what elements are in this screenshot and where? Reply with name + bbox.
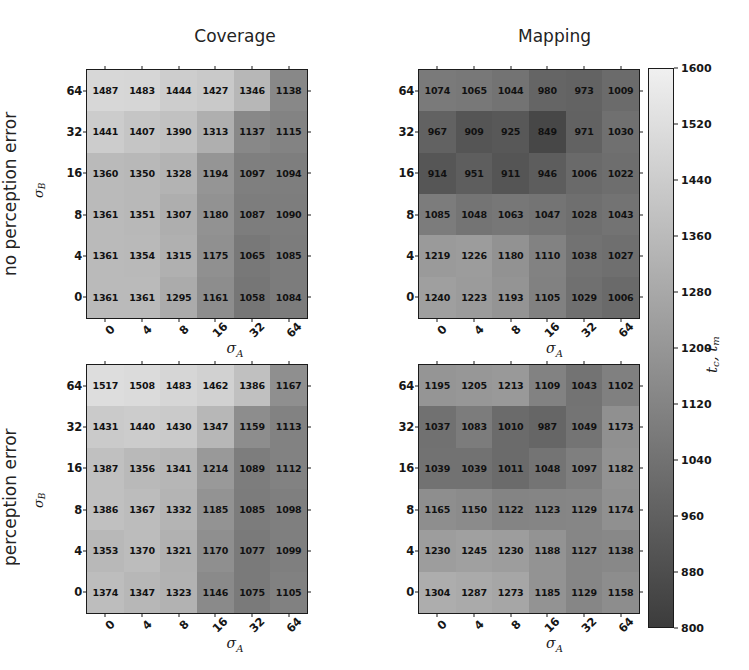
heatmap-cell-value: 1347 bbox=[129, 587, 155, 598]
heatmap-cell: 1083 bbox=[456, 406, 493, 447]
heatmap-cell-value: 1048 bbox=[461, 209, 487, 220]
x-tick-mark bbox=[437, 318, 438, 322]
x-tick-label: 16 bbox=[210, 614, 231, 635]
heatmap-cell-value: 1049 bbox=[571, 421, 597, 432]
y-tick-mark bbox=[415, 468, 419, 469]
heatmap-cell-value: 1063 bbox=[498, 209, 524, 220]
heatmap-cell: 100664 bbox=[602, 277, 639, 318]
heatmap-cell: 1307 bbox=[160, 194, 197, 235]
x-tick-label: 0 bbox=[103, 322, 118, 337]
heatmap-cell-value: 1185 bbox=[203, 504, 229, 515]
heatmap-cell: 1440 bbox=[124, 406, 161, 447]
x-tick-label: 32 bbox=[246, 319, 267, 340]
y-tick-label: 16 bbox=[388, 461, 414, 475]
x-axis-label-subscript: A bbox=[556, 643, 563, 654]
y-tick-mark-right bbox=[307, 214, 311, 215]
y-tick-mark bbox=[83, 297, 87, 298]
heatmap-cell: 1049 bbox=[566, 406, 603, 447]
heatmap-cell-value: 1137 bbox=[239, 126, 265, 137]
column-title-coverage: Coverage bbox=[85, 26, 385, 46]
x-tick-mark bbox=[178, 613, 179, 617]
heatmap-cell-value: 1170 bbox=[203, 545, 229, 556]
y-tick-label: 32 bbox=[388, 125, 414, 139]
heatmap-cell: 143132 bbox=[87, 406, 124, 447]
x-tick-label: 64 bbox=[283, 319, 304, 340]
heatmap-cell-value: 1245 bbox=[461, 545, 487, 556]
heatmap-cell-value: 1307 bbox=[166, 209, 192, 220]
heatmap-cell: 13614 bbox=[87, 235, 124, 276]
heatmap-cell: 13868 bbox=[87, 489, 124, 530]
heatmap-cell: 909 bbox=[456, 111, 493, 152]
heatmap-cell-value: 1185 bbox=[535, 587, 561, 598]
y-tick-label: 8 bbox=[388, 503, 414, 517]
x-axis-label-symbol: σ bbox=[227, 340, 237, 356]
y-tick-label: 0 bbox=[56, 585, 82, 599]
x-tick-mark-top bbox=[141, 361, 142, 365]
heatmap-cell: 1113 bbox=[270, 406, 307, 447]
heatmap-cell-value: 1295 bbox=[166, 292, 192, 303]
heatmap-cell-value: 1123 bbox=[535, 504, 561, 515]
colorbar-tick-label: 960 bbox=[674, 510, 704, 523]
heatmap-cell-value: 1122 bbox=[498, 504, 524, 515]
colorbar-tick-mark bbox=[674, 572, 678, 573]
heatmap-cell: 11938 bbox=[492, 277, 529, 318]
heatmap-grid: 1195641205121311091043110210373210831010… bbox=[418, 364, 640, 614]
heatmap-cell-value: 1315 bbox=[166, 250, 192, 261]
heatmap-cell: 103916 bbox=[419, 448, 456, 489]
heatmap-cell-value: 1113 bbox=[276, 421, 302, 432]
heatmap-cell-value: 1138 bbox=[608, 545, 634, 556]
heatmap-cell-value: 1097 bbox=[239, 168, 265, 179]
heatmap-cell-value: 1058 bbox=[239, 292, 265, 303]
row-label-no-perception-error: no perception error bbox=[0, 60, 30, 328]
x-tick-mark bbox=[473, 613, 474, 617]
y-tick-mark-right bbox=[639, 90, 643, 91]
y-tick-mark-right bbox=[307, 592, 311, 593]
heatmap-panel-coverage-perception-error: 1517641508148314621386116714313214401430… bbox=[86, 364, 308, 614]
heatmap-cell: 1150 bbox=[456, 489, 493, 530]
heatmap-cell: 1123 bbox=[529, 489, 566, 530]
x-tick-mark-top bbox=[547, 66, 548, 70]
heatmap-cell: 1065 bbox=[234, 235, 271, 276]
x-tick-mark-top bbox=[251, 66, 252, 70]
heatmap-cell: 1011 bbox=[492, 448, 529, 489]
heatmap-cell-value: 1075 bbox=[239, 587, 265, 598]
heatmap-cell-value: 1105 bbox=[535, 292, 561, 303]
heatmap-cell: 1185 bbox=[197, 489, 234, 530]
y-axis-label-top-subscript: B bbox=[37, 182, 47, 189]
y-tick-label: 4 bbox=[56, 544, 82, 558]
heatmap-cell-value: 1313 bbox=[203, 126, 229, 137]
heatmap-cell-value: 1083 bbox=[461, 421, 487, 432]
heatmap-cell: 987 bbox=[529, 406, 566, 447]
x-tick-mark-top bbox=[583, 361, 584, 365]
heatmap-cell: 849 bbox=[529, 111, 566, 152]
x-axis-label-subscript: A bbox=[236, 348, 243, 359]
colorbar-label-sub2: m bbox=[710, 337, 721, 346]
x-tick-label: 0 bbox=[435, 617, 450, 632]
heatmap-cell: 12874 bbox=[456, 572, 493, 613]
heatmap-cell: 1245 bbox=[456, 530, 493, 571]
heatmap-cell: 1367 bbox=[124, 489, 161, 530]
heatmap-cell: 108464 bbox=[270, 277, 307, 318]
heatmap-cell: 91416 bbox=[419, 153, 456, 194]
x-tick-label: 4 bbox=[471, 617, 486, 632]
y-tick-mark bbox=[415, 385, 419, 386]
colorbar-tick-label: 1360 bbox=[674, 230, 712, 243]
colorbar-tick-mark bbox=[674, 180, 678, 181]
y-tick-label: 8 bbox=[56, 208, 82, 222]
colorbar: 1600152014401360128012001120104096088080… bbox=[648, 68, 674, 628]
heatmap-cell-value: 1006 bbox=[608, 292, 634, 303]
heatmap-cell-value: 1077 bbox=[239, 545, 265, 556]
heatmap-cell: 1138 bbox=[602, 530, 639, 571]
y-tick-mark-right bbox=[307, 550, 311, 551]
heatmap-cell-value: 1230 bbox=[498, 545, 524, 556]
heatmap-cell-value: 1084 bbox=[276, 292, 302, 303]
heatmap-cell: 96732 bbox=[419, 111, 456, 152]
heatmap-cell: 1009 bbox=[602, 70, 639, 111]
heatmap-cell-value: 1321 bbox=[166, 545, 192, 556]
colorbar-tick-mark bbox=[674, 460, 678, 461]
y-tick-mark-right bbox=[639, 509, 643, 510]
heatmap-cell-value: 1074 bbox=[425, 85, 451, 96]
heatmap-cell-value: 1165 bbox=[425, 504, 451, 515]
heatmap-cell-value: 1517 bbox=[93, 380, 119, 391]
colorbar-label-t2: , t bbox=[703, 346, 721, 362]
